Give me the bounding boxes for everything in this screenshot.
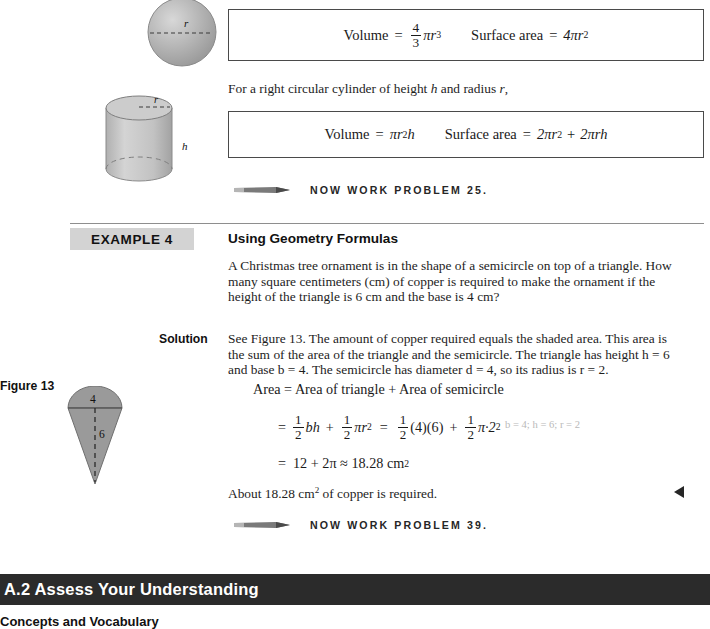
cylinder-diagram: r h	[92, 93, 222, 185]
math-result-value: 12 + 2π ≈ 18.28 cm	[293, 455, 404, 472]
example-title: Using Geometry Formulas	[228, 231, 398, 246]
math-line-area-sum: Area = Area of triangle + Area of semici…	[253, 381, 504, 398]
svg-text:r: r	[184, 17, 189, 29]
subsection-title: Concepts and Vocabulary	[0, 614, 159, 629]
frac2-num: 1	[342, 413, 353, 427]
example-conclusion: About 18.28 cm2 of copper is required.	[228, 486, 704, 502]
sphere-volume-numerator: 4	[411, 21, 422, 35]
term-numeric-product: (4)(6)	[410, 419, 443, 436]
term-bh: bh	[306, 419, 320, 436]
frac2-den: 2	[342, 427, 353, 442]
fraction-one-half-c: 1 2	[398, 413, 409, 441]
sphere-volume-expression: πr	[423, 27, 436, 44]
math-line-result: = 12 + 2π ≈ 18.28 cm2	[278, 455, 409, 472]
math-plus-2: +	[449, 419, 457, 436]
cylinder-surface-term1: 2πr	[537, 126, 557, 143]
solution-end-triangle-icon	[674, 486, 684, 498]
cylinder-height-label: h	[182, 140, 188, 152]
cylinder-intro-between: and radius	[437, 81, 499, 96]
pencil-icon	[232, 184, 294, 196]
problem-line-1: A Christmas tree ornament is in the shap…	[228, 258, 704, 274]
math-line-substitution: = 1 2 bh + 1 2 πr2 = 1 2 (4)(6) + 1 2 π·…	[278, 413, 501, 441]
figure-top-dimension: 4	[90, 393, 96, 405]
problem-line-3: height of the triangle is 6 cm and the b…	[228, 289, 704, 305]
math-equals-1: =	[278, 419, 286, 436]
cylinder-volume-tail: h	[407, 126, 414, 143]
frac3-num: 1	[398, 413, 409, 427]
fraction-one-half-d: 1 2	[465, 413, 476, 441]
example-top-rule	[70, 223, 704, 224]
cylinder-intro-after: ,	[505, 81, 508, 96]
math-equals-2: =	[380, 419, 388, 436]
sphere-surface-expression: 4πr	[563, 27, 583, 44]
pencil-icon	[232, 519, 294, 531]
cylinder-formula-row: Volume = πr2h Surface area = 2πr2 + 2πrh	[325, 126, 608, 143]
frac3-den: 2	[398, 427, 409, 442]
sphere-volume-fraction: 4 3	[411, 21, 422, 50]
math-plus-1: +	[326, 419, 334, 436]
cylinder-intro-before: For a right circular cylinder of height	[228, 81, 431, 96]
term-pi-times-2: π·2	[478, 419, 496, 436]
cylinder-surface-equals: =	[523, 126, 531, 143]
frac1-num: 1	[293, 413, 304, 427]
sphere-volume-denominator: 3	[411, 35, 422, 50]
sphere-surface-label: Surface area	[471, 27, 543, 44]
term-pi-r: πr	[354, 419, 367, 436]
cylinder-intro-text: For a right circular cylinder of height …	[228, 81, 678, 97]
cylinder-surface-term2: 2πrh	[580, 126, 607, 143]
solution-line-1: See Figure 13. The amount of copper requ…	[228, 331, 704, 347]
conclusion-before: About 18.28 cm	[228, 486, 315, 501]
section-header-title: A.2 Assess Your Understanding	[0, 580, 259, 599]
example-problem-statement: A Christmas tree ornament is in the shap…	[228, 258, 704, 305]
solution-line-2: the sum of the area of the triangle and …	[228, 347, 704, 363]
frac1-den: 2	[293, 427, 304, 442]
cylinder-volume-expression: πr	[390, 126, 403, 143]
sphere-formula-row: Volume = 4 3 πr3 Surface area = 4πr2	[344, 21, 589, 50]
cylinder-volume-label: Volume	[325, 126, 370, 143]
sphere-diagram: r	[140, 0, 224, 70]
cylinder-volume-equals: =	[375, 126, 383, 143]
conclusion-after: of copper is required.	[319, 486, 437, 501]
sphere-volume-equals: =	[394, 27, 402, 44]
solution-label: Solution	[159, 332, 208, 346]
solution-line-3: and base b = 4. The semicircle has diame…	[228, 362, 704, 378]
cylinder-surface-label: Surface area	[445, 126, 517, 143]
fraction-one-half-a: 1 2	[293, 413, 304, 441]
math-annotation-substitutions: b = 4; h = 6; r = 2	[505, 419, 580, 430]
figure-label: Figure 13	[0, 379, 54, 393]
cylinder-surface-plus: +	[567, 126, 575, 143]
cylinder-formula-box: Volume = πr2h Surface area = 2πr2 + 2πrh	[228, 111, 704, 158]
figure-height-dimension: 6	[99, 428, 105, 440]
frac4-num: 1	[465, 413, 476, 427]
sphere-formula-box: Volume = 4 3 πr3 Surface area = 4πr2	[228, 9, 704, 61]
problem-line-2: many square centimeters (cm) of copper i…	[228, 274, 704, 290]
frac4-den: 2	[465, 427, 476, 442]
figure-13-ornament-diagram: 4 6	[50, 386, 160, 490]
now-work-problem-25[interactable]: NOW WORK PROBLEM 25.	[232, 184, 488, 196]
section-header-bar: A.2 Assess Your Understanding	[0, 574, 710, 605]
now-work-problem-25-label: NOW WORK PROBLEM 25.	[310, 184, 488, 196]
example-tag: EXAMPLE 4	[70, 228, 194, 250]
sphere-volume-label: Volume	[344, 27, 389, 44]
example-solution-text: See Figure 13. The amount of copper requ…	[228, 331, 704, 378]
math-equals-3: =	[278, 455, 286, 472]
sphere-surface-equals: =	[549, 27, 557, 44]
fraction-one-half-b: 1 2	[342, 413, 353, 441]
now-work-problem-39-label: NOW WORK PROBLEM 39.	[310, 519, 488, 531]
now-work-problem-39[interactable]: NOW WORK PROBLEM 39.	[232, 519, 488, 531]
